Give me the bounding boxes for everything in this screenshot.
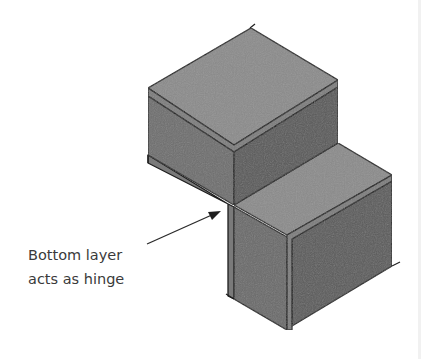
annotation-line-2: acts as hinge <box>28 267 124 291</box>
annotation-line-1: Bottom layer <box>28 243 124 267</box>
folded-block-diagram <box>0 0 421 359</box>
annotation-arrow <box>147 211 221 244</box>
annotation-label: Bottom layer acts as hinge <box>28 243 124 291</box>
